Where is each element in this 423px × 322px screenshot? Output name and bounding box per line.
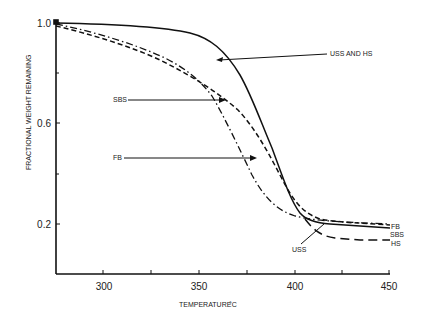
tga-chart: 1.0 0.6 0.2 300 350 400 450 FRACTIONAL W… bbox=[0, 0, 423, 322]
svg-text:SBS: SBS bbox=[113, 96, 127, 103]
end-label-hs: HS bbox=[391, 240, 401, 247]
svg-text:FB: FB bbox=[113, 154, 122, 161]
ytick-0.2: 0.2 bbox=[37, 219, 51, 230]
annotation-uss-and-hs: USS AND HS bbox=[216, 50, 373, 62]
x-axis-unit: °C bbox=[229, 301, 237, 308]
annotation-uss: USS bbox=[292, 224, 324, 253]
svg-text:USS: USS bbox=[292, 246, 307, 253]
annotation-sbs: SBS bbox=[113, 96, 226, 103]
end-label-sbs: SBS bbox=[390, 231, 404, 238]
end-label-fb: FB bbox=[391, 223, 400, 230]
xtick-450: 450 bbox=[381, 281, 398, 292]
annotation-fb: FB bbox=[113, 154, 257, 161]
x-axis-title: TEMPERATURE bbox=[179, 301, 232, 308]
svg-text:USS AND HS: USS AND HS bbox=[330, 50, 373, 57]
ytick-0.6: 0.6 bbox=[37, 118, 51, 129]
xtick-350: 350 bbox=[191, 281, 208, 292]
y-axis-title: FRACTIONAL WEIGHT REMAINING bbox=[25, 54, 32, 170]
xtick-400: 400 bbox=[287, 281, 304, 292]
ytick-1.0: 1.0 bbox=[37, 18, 51, 29]
xtick-300: 300 bbox=[96, 281, 113, 292]
